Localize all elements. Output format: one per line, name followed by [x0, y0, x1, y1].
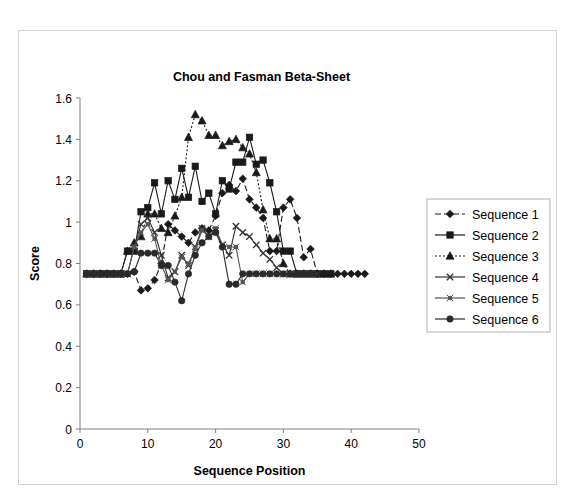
data-point-square: [233, 159, 239, 165]
data-point-triangle: [239, 143, 247, 150]
data-point-triangle: [279, 259, 287, 266]
data-point-square: [151, 180, 157, 186]
data-point-x: [246, 233, 252, 239]
data-point-square: [165, 178, 171, 184]
data-point-circle: [185, 271, 191, 277]
data-point-circle: [111, 271, 117, 277]
data-point-square: [273, 209, 279, 215]
data-point-x: [260, 250, 266, 256]
x-axis-tick-label: 30: [277, 437, 291, 451]
data-point-square: [192, 163, 198, 169]
data-point-square: [226, 186, 232, 192]
data-point-circle: [287, 271, 293, 277]
data-point-diamond: [293, 214, 301, 222]
y-axis-tick-label: 0.6: [55, 298, 72, 312]
data-point-circle: [145, 250, 151, 256]
y-axis-tick-label: 1.6: [55, 92, 72, 106]
x-axis-tick-label: 40: [345, 437, 359, 451]
data-point-circle: [267, 271, 273, 277]
data-point-circle: [212, 229, 218, 235]
data-point-circle: [307, 271, 313, 277]
data-point-triangle: [259, 206, 267, 213]
chart-figure-frame: Chou and Fasman Beta-Sheet00.20.40.60.81…: [18, 30, 557, 485]
x-axis-title: Sequence Position: [194, 464, 306, 478]
data-point-diamond: [137, 287, 145, 295]
data-point-circle: [219, 244, 225, 250]
data-point-square: [158, 211, 164, 217]
data-point-triangle: [232, 135, 240, 142]
data-point-triangle: [252, 168, 260, 175]
data-point-square: [287, 248, 293, 254]
screenshot-page: Chou and Fasman Beta-Sheet00.20.40.60.81…: [0, 0, 576, 501]
x-axis-tick-label: 0: [77, 437, 84, 451]
y-axis-tick-label: 1.4: [55, 133, 72, 147]
y-axis-title: Score: [28, 246, 42, 281]
data-point-square: [246, 134, 252, 140]
data-point-diamond: [300, 253, 308, 261]
data-point-circle: [124, 271, 130, 277]
data-point-square: [179, 165, 185, 171]
data-point-square: [185, 194, 191, 200]
data-point-circle: [172, 279, 178, 285]
data-point-circle: [104, 271, 110, 277]
y-axis-tick-label: 1.2: [55, 174, 72, 188]
y-axis-tick-label: 0.4: [55, 340, 72, 354]
data-point-square: [138, 209, 144, 215]
data-point-diamond: [280, 204, 288, 212]
data-point-circle: [97, 271, 103, 277]
data-point-triangle: [157, 224, 165, 231]
chart-title: Chou and Fasman Beta-Sheet: [173, 70, 351, 84]
x-axis-tick-label: 50: [412, 437, 426, 451]
data-point-square: [267, 180, 273, 186]
chart-legend: Sequence 1Sequence 2Sequence 3Sequence 4…: [427, 199, 550, 332]
data-point-square: [212, 211, 218, 217]
series-2[interactable]: [84, 134, 334, 277]
data-point-diamond: [144, 285, 152, 293]
data-point-triangle: [171, 212, 179, 219]
data-point-circle: [179, 298, 185, 304]
data-point-circle: [246, 271, 252, 277]
legend-item-label: Sequence 5: [472, 292, 539, 306]
data-point-circle: [301, 271, 307, 277]
data-point-square: [260, 157, 266, 163]
data-point-circle: [117, 271, 123, 277]
y-axis-tick-label: 0: [65, 423, 72, 437]
data-point-diamond: [361, 270, 369, 278]
legend-item-label: Sequence 1: [472, 208, 539, 222]
data-point-triangle: [178, 193, 186, 200]
data-point-circle: [260, 271, 266, 277]
data-point-star: [172, 269, 178, 275]
data-point-star: [145, 221, 151, 227]
data-point-square: [172, 196, 178, 202]
data-point-circle: [273, 271, 279, 277]
data-point-square: [219, 178, 225, 184]
data-point-circle: [165, 262, 171, 268]
data-point-circle: [226, 281, 232, 287]
y-axis-tick-label: 0.2: [55, 381, 72, 395]
data-point-triangle: [212, 131, 220, 138]
data-point-circle: [192, 252, 198, 258]
legend-item-label: Sequence 4: [472, 271, 539, 285]
data-point-circle: [280, 271, 286, 277]
data-point-circle: [240, 271, 246, 277]
y-axis-tick-label: 1: [65, 216, 72, 230]
data-point-triangle: [191, 110, 199, 117]
data-point-circle: [294, 271, 300, 277]
legend-item-label: Sequence 3: [472, 250, 539, 264]
data-point-circle: [233, 281, 239, 287]
data-point-square: [253, 161, 259, 167]
series-line: [87, 137, 331, 274]
data-point-circle: [151, 250, 157, 256]
data-point-diamond: [239, 175, 247, 183]
legend-item-label: Sequence 2: [472, 229, 539, 243]
chart-canvas[interactable]: Chou and Fasman Beta-Sheet00.20.40.60.81…: [19, 31, 556, 484]
data-point-triangle: [218, 141, 226, 148]
x-axis-tick-label: 10: [141, 437, 155, 451]
data-point-square: [206, 190, 212, 196]
data-point-x: [267, 256, 273, 262]
data-point-x: [273, 264, 279, 270]
data-point-circle: [158, 262, 164, 268]
data-point-circle: [253, 271, 259, 277]
data-point-diamond: [191, 229, 199, 237]
x-axis-tick-label: 20: [209, 437, 223, 451]
